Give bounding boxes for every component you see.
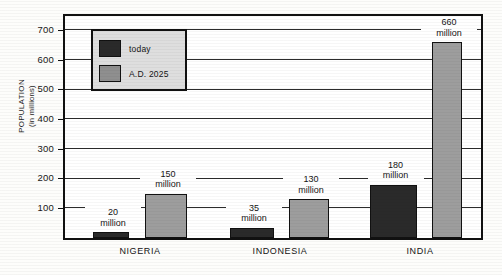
x-label-nigeria: NIGERIA <box>95 246 185 256</box>
y-tick-label-200: 200 <box>18 172 54 183</box>
legend: today A.D. 2025 <box>91 29 187 91</box>
y-tick-label-300: 300 <box>18 143 54 154</box>
bar-today-nigeria <box>93 232 129 238</box>
gridline-300 <box>65 148 481 149</box>
value-label-today-nigeria-unit: million <box>87 218 139 229</box>
value-label-future-nigeria-number: 150 <box>142 169 194 180</box>
y-tick-label-500: 500 <box>18 83 54 94</box>
legend-item-future: A.D. 2025 <box>99 61 179 86</box>
y-tick-label-100: 100 <box>18 202 54 213</box>
bar-today-india <box>370 185 417 238</box>
legend-label-today: today <box>129 44 151 54</box>
bar-today-indonesia <box>230 228 274 238</box>
value-label-today-nigeria-number: 20 <box>87 207 139 218</box>
value-label-today-india-unit: million <box>370 170 422 181</box>
value-label-today-indonesia-unit: million <box>228 213 280 224</box>
value-label-future-india: 660million <box>421 17 477 38</box>
y-tick-label-700: 700 <box>18 24 54 35</box>
legend-swatch-today-icon <box>99 40 121 57</box>
value-label-today-indonesia: 35million <box>226 203 282 224</box>
legend-swatch-future-icon <box>99 65 121 82</box>
bar-future-india <box>432 42 462 238</box>
value-label-future-indonesia-unit: million <box>285 185 337 196</box>
value-label-future-india-number: 660 <box>423 17 475 28</box>
gridline-400 <box>65 118 481 119</box>
value-label-future-nigeria-unit: million <box>142 179 194 190</box>
y-tick-label-400: 400 <box>18 113 54 124</box>
x-label-indonesia: INDONESIA <box>235 246 325 256</box>
value-label-today-indonesia-number: 35 <box>228 203 280 214</box>
x-label-india: INDIA <box>375 246 465 256</box>
value-label-today-nigeria: 20million <box>85 207 141 228</box>
bar-future-indonesia <box>289 199 329 238</box>
value-label-today-india-number: 180 <box>370 160 422 171</box>
legend-label-future: A.D. 2025 <box>129 69 169 79</box>
value-label-future-nigeria: 150million <box>140 169 196 190</box>
chart-canvas: POPULATION (in millions) 100200300400500… <box>0 0 502 275</box>
value-label-today-india: 180million <box>368 160 424 181</box>
value-label-future-indonesia-number: 130 <box>285 174 337 185</box>
y-tick-label-600: 600 <box>18 54 54 65</box>
value-label-future-india-unit: million <box>423 28 475 39</box>
plot-frame: 20million150million35million130million18… <box>63 14 483 240</box>
bar-future-nigeria <box>145 194 187 238</box>
value-label-future-indonesia: 130million <box>283 174 339 195</box>
legend-item-today: today <box>99 36 179 61</box>
